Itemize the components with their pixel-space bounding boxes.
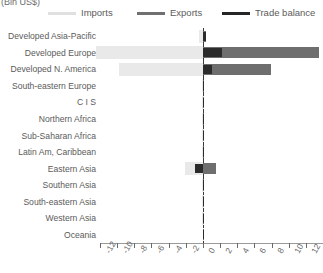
chart-row [100, 96, 323, 109]
axis-tick-label: -6 [154, 244, 166, 255]
category-label: Developed N. America [0, 64, 96, 74]
axis-tick-label: -8 [137, 244, 149, 255]
value-axis: -12-10-8-6-4-202468101214 [100, 243, 323, 273]
bar-trade-balance [203, 131, 204, 140]
axis-tick-label: 6 [257, 246, 268, 255]
category-label: Eastern Asia [0, 164, 96, 174]
legend-label-trade-balance: Trade balance [255, 5, 315, 21]
axis-tick [100, 243, 101, 248]
bar-exports [203, 64, 271, 75]
bar-trade-balance [203, 197, 204, 206]
bar-imports [119, 63, 203, 76]
category-label: Sub-Saharan Africa [0, 131, 96, 141]
axis-tick-label: 2 [223, 246, 234, 255]
legend-item-imports[interactable]: Imports [48, 5, 113, 21]
category-label: Western Asia [0, 213, 96, 223]
bar-imports [96, 46, 203, 59]
axis-tick [134, 243, 135, 248]
axis-tick-label: 0 [206, 246, 217, 255]
axis-tick [272, 243, 273, 248]
bar-trade-balance [195, 164, 203, 173]
axis-tick [151, 243, 152, 248]
bar-trade-balance [203, 230, 204, 239]
category-label: C I S [0, 97, 96, 107]
axis-tick [117, 243, 118, 248]
legend-label-imports: Imports [81, 5, 113, 21]
axis-tick [220, 243, 221, 248]
chart-row [100, 46, 323, 59]
legend-swatch-exports [137, 12, 165, 15]
chart-row [100, 146, 323, 159]
category-axis-labels: Developed Asia-PacificDeveloped EuropeDe… [0, 28, 98, 243]
category-label: South-eastern Europe [0, 81, 96, 91]
chart-row [100, 195, 323, 208]
category-label: Latin Am, Caribbean [0, 147, 96, 157]
category-label: South-eastern Asia [0, 197, 96, 207]
axis-tick [237, 243, 238, 248]
category-label: Developed Asia-Pacific [0, 31, 96, 41]
category-label: Southern Asia [0, 180, 96, 190]
chart-row [100, 63, 323, 76]
chart-row [100, 162, 323, 175]
chart-row [100, 79, 323, 92]
legend-swatch-imports [48, 12, 76, 15]
chart-row [100, 179, 323, 192]
bar-trade-balance [203, 32, 206, 41]
axis-tick-label: -2 [189, 244, 201, 255]
bar-trade-balance [203, 180, 204, 189]
bar-trade-balance [203, 48, 222, 57]
axis-tick [254, 243, 255, 248]
axis-tick [186, 243, 187, 248]
chart-container: (Bln US$) Imports Exports Trade balance … [0, 0, 323, 273]
chart-row [100, 212, 323, 225]
legend-item-trade-balance[interactable]: Trade balance [222, 5, 315, 21]
bar-trade-balance [203, 81, 204, 90]
chart-row [100, 30, 323, 43]
axis-tick [306, 243, 307, 248]
chart-legend: Imports Exports Trade balance [0, 5, 323, 21]
category-label: Northern Africa [0, 114, 96, 124]
chart-row [100, 113, 323, 126]
axis-tick [203, 243, 204, 248]
legend-swatch-trade-balance [222, 12, 250, 15]
axis-tick-label: 8 [275, 246, 286, 255]
bar-trade-balance [203, 114, 204, 123]
bar-trade-balance [203, 98, 204, 107]
plot-area [100, 28, 323, 243]
axis-tick [289, 243, 290, 248]
bar-trade-balance [203, 65, 212, 74]
chart-row [100, 228, 323, 241]
legend-label-exports: Exports [170, 5, 202, 21]
category-label: Oceania [0, 230, 96, 240]
bar-trade-balance [203, 147, 204, 156]
axis-tick-label: 4 [240, 246, 251, 255]
axis-tick [169, 243, 170, 248]
chart-row [100, 129, 323, 142]
axis-tick-label: -4 [172, 244, 184, 255]
legend-item-exports[interactable]: Exports [137, 5, 202, 21]
bar-exports [203, 163, 216, 174]
bar-trade-balance [203, 214, 204, 223]
category-label: Developed Europe [0, 48, 96, 58]
